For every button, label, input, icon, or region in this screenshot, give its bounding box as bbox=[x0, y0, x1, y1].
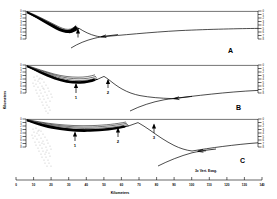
thrust-fault-b bbox=[130, 98, 178, 111]
x-tick-label: 20 bbox=[49, 183, 53, 187]
panel-c-left-axis: 0 1 2 3 4 5 6 7 8 bbox=[20, 117, 26, 149]
y-tick-label: 5 bbox=[262, 135, 264, 139]
panel-a-left-axis: 0 1 2 3 4 5 6 7 8 bbox=[20, 9, 26, 41]
x-tick-label: 60 bbox=[120, 183, 124, 187]
x-tick-label: 0 bbox=[15, 183, 17, 187]
y-tick-label: 4 bbox=[262, 131, 264, 135]
x-tick-label: 70 bbox=[137, 183, 141, 187]
y-tick-label: 8 bbox=[20, 91, 22, 95]
y-tick-label: 8 bbox=[262, 91, 264, 95]
y-tick-label: 8 bbox=[262, 37, 264, 41]
geologic-cross-section-figure: 0 1 2 3 4 5 6 7 8 0 1 2 3 4 5 bbox=[0, 0, 277, 199]
y-tick-label: 0 bbox=[20, 117, 22, 121]
x-tick-label: 110 bbox=[207, 183, 212, 187]
stipple-sediment-c bbox=[32, 128, 52, 167]
y-tick-label: 4 bbox=[20, 77, 22, 81]
annotation-arrow-c-2: 2 bbox=[116, 128, 120, 144]
panel-c-right-axis: 0 1 2 3 4 5 6 7 8 bbox=[258, 117, 264, 149]
y-tick-label: 8 bbox=[262, 145, 264, 149]
surface-c-crest bbox=[129, 123, 150, 131]
y-tick-label: 5 bbox=[262, 27, 264, 31]
y-tick-label: 5 bbox=[20, 135, 22, 139]
annotation-arrow-c-3: 3 bbox=[152, 124, 156, 140]
panel-b-left-axis: 0 1 2 3 4 5 6 7 8 bbox=[20, 63, 26, 95]
panel-letter-a: A bbox=[228, 47, 233, 54]
y-tick-label: 7 bbox=[20, 142, 22, 146]
y-tick-label: 0 bbox=[20, 63, 22, 67]
y-axis-title: Kilometers bbox=[3, 91, 7, 110]
y-tick-label: 2 bbox=[262, 16, 264, 20]
y-tick-label: 8 bbox=[20, 145, 22, 149]
annotation-label-3: 3 bbox=[153, 135, 156, 140]
y-tick-label: 8 bbox=[20, 37, 22, 41]
y-tick-label: 3 bbox=[20, 74, 22, 78]
vertical-exaggeration-note: 3x Vert. Exag. bbox=[195, 169, 217, 173]
annotation-label-2: 2 bbox=[107, 90, 110, 95]
y-tick-label: 6 bbox=[20, 84, 22, 88]
transport-direction-arrow-b bbox=[174, 96, 192, 99]
y-tick-label: 2 bbox=[20, 70, 22, 74]
annotation-label-1: 1 bbox=[75, 95, 78, 100]
y-tick-label: 2 bbox=[20, 124, 22, 128]
y-tick-label: 7 bbox=[262, 142, 264, 146]
surface-c-right bbox=[150, 130, 192, 151]
y-tick-label: 6 bbox=[20, 138, 22, 142]
x-tick-label: 100 bbox=[189, 183, 194, 187]
y-tick-label: 4 bbox=[262, 23, 264, 27]
y-tick-label: 1 bbox=[20, 13, 22, 17]
y-tick-label: 5 bbox=[20, 81, 22, 85]
basin-floor-a bbox=[102, 28, 259, 36]
y-tick-label: 6 bbox=[262, 30, 264, 34]
x-tick-label: 40 bbox=[85, 183, 89, 187]
y-tick-label: 0 bbox=[20, 9, 22, 13]
panel-letter-b: B bbox=[236, 104, 241, 111]
y-tick-label: 1 bbox=[262, 121, 264, 125]
y-tick-label: 1 bbox=[262, 67, 264, 71]
layer-wedge-b bbox=[27, 66, 96, 84]
panel-a-right-axis: 0 1 2 3 4 5 6 7 8 bbox=[258, 9, 264, 41]
y-tick-label: 0 bbox=[262, 117, 264, 121]
y-tick-label: 2 bbox=[262, 124, 264, 128]
figure-canvas: 0 1 2 3 4 5 6 7 8 0 1 2 3 4 5 bbox=[0, 0, 277, 199]
x-axis: 3x Vert. Exag. 0 10 20 30 40 50 60 70 80… bbox=[15, 169, 265, 195]
y-tick-label: 1 bbox=[20, 121, 22, 125]
y-tick-label: 3 bbox=[262, 128, 264, 132]
x-tick-label: 30 bbox=[67, 183, 71, 187]
y-tick-label: 5 bbox=[20, 27, 22, 31]
y-tick-label: 2 bbox=[20, 16, 22, 20]
x-tick-label: 80 bbox=[155, 183, 159, 187]
y-tick-label: 3 bbox=[262, 20, 264, 24]
surface-b-crest bbox=[98, 76, 122, 89]
y-tick-label: 4 bbox=[20, 131, 22, 135]
surface-a-right bbox=[79, 28, 102, 37]
y-tick-label: 4 bbox=[262, 77, 264, 81]
x-tick-label: 90 bbox=[172, 183, 176, 187]
y-tick-label: 0 bbox=[262, 63, 264, 67]
x-tick-label: 50 bbox=[102, 183, 106, 187]
y-tick-label: 6 bbox=[20, 30, 22, 34]
thrust-fault-c bbox=[158, 151, 206, 166]
y-tick-label: 7 bbox=[20, 34, 22, 38]
thrust-fault-a bbox=[71, 37, 104, 48]
annotation-label-1: 1 bbox=[74, 143, 77, 148]
annotation-arrow-b-1: 1 bbox=[74, 83, 78, 100]
y-tick-label: 6 bbox=[262, 138, 264, 142]
y-tick-label: 5 bbox=[262, 81, 264, 85]
basin-floor-b bbox=[122, 89, 172, 99]
y-tick-label: 7 bbox=[20, 88, 22, 92]
y-tick-label: 4 bbox=[20, 23, 22, 27]
x-axis-title: Kilometers bbox=[111, 191, 130, 195]
panel-c: 0 1 2 3 4 5 6 7 8 0 1 2 3 4 5 bbox=[20, 117, 264, 166]
panel-a: 0 1 2 3 4 5 6 7 8 0 1 2 3 4 5 bbox=[20, 9, 264, 54]
annotation-arrow-c-1: 1 bbox=[73, 132, 77, 148]
y-tick-label: 7 bbox=[262, 88, 264, 92]
panel-b-right-axis: 0 1 2 3 4 5 6 7 8 bbox=[258, 63, 264, 95]
y-tick-label: 3 bbox=[20, 20, 22, 24]
x-tick-label: 10 bbox=[32, 183, 36, 187]
panel-b: Kilometers 0 1 2 3 4 5 6 7 8 bbox=[3, 63, 264, 113]
y-tick-label: 3 bbox=[20, 128, 22, 132]
y-tick-label: 1 bbox=[20, 67, 22, 71]
x-tick-label: 130 bbox=[242, 183, 247, 187]
y-tick-label: 7 bbox=[262, 34, 264, 38]
annotation-label-2: 2 bbox=[117, 139, 120, 144]
